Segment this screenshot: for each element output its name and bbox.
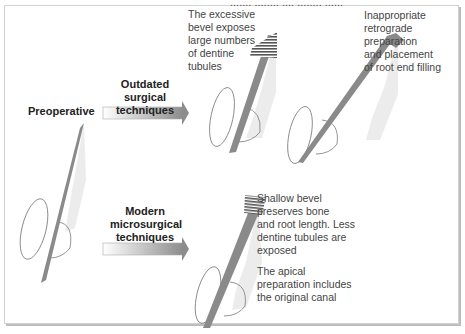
tooth-shallow-bevel — [190, 195, 266, 328]
clipped-caption: ....... ........ .... ........ ...... — [230, 0, 343, 8]
tooth-preoperative — [15, 123, 86, 283]
label-preoperative: Preoperative — [28, 105, 95, 118]
annotation-inappropriate-prep: Inappropriate retrograde preparation and… — [364, 9, 441, 74]
annotation-shallow-bevel: Shallow bevel preserves bone and root le… — [257, 192, 355, 257]
label-modern-techniques: Modern microsurgical techniques — [110, 205, 180, 244]
annotation-apical-prep: The apical preparation includes the orig… — [257, 265, 352, 304]
annotation-excessive-bevel: The excessive bevel exposes large number… — [188, 8, 255, 73]
label-outdated-techniques: Outdated surgical techniques — [100, 78, 190, 117]
